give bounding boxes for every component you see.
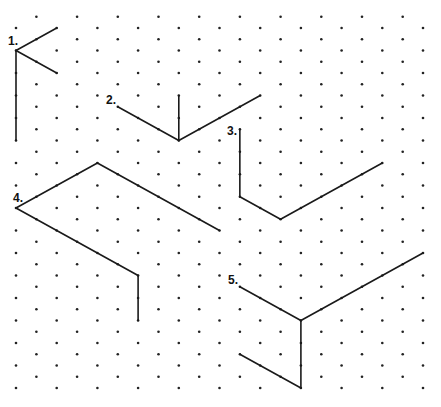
grid-dot [55, 274, 58, 277]
grid-dot [157, 308, 160, 311]
grid-dot [15, 364, 18, 367]
grid-dot [15, 319, 18, 322]
grid-dot [178, 184, 181, 187]
grid-dot [15, 252, 18, 255]
grid-dot [198, 376, 201, 379]
grid-dot [259, 184, 262, 187]
grid-dot [137, 94, 140, 97]
grid-dot [198, 173, 201, 176]
grid-dot [279, 173, 282, 176]
grid-dot [401, 196, 404, 199]
figure-segment [240, 197, 281, 220]
grid-dot [137, 49, 140, 52]
grid-dot [381, 229, 384, 232]
grid-dot [35, 286, 38, 289]
grid-dot [15, 229, 18, 232]
grid-dot [157, 173, 160, 176]
grid-dot [422, 387, 425, 390]
grid-dot [320, 376, 323, 379]
grid-dot [137, 387, 140, 390]
grid-dot [381, 117, 384, 120]
grid-dot [35, 15, 38, 18]
grid-dot [422, 184, 425, 187]
grid-dot [259, 72, 262, 75]
figure-labels: 1.2.3.4.5. [8, 34, 238, 287]
grid-dot [218, 342, 221, 345]
grid-dot [239, 308, 242, 311]
grid-dot [300, 49, 303, 52]
figure-label-5: 5. [228, 273, 238, 287]
grid-dot [422, 117, 425, 120]
grid-dot [279, 331, 282, 334]
grid-dot [279, 196, 282, 199]
grid-dot [117, 61, 120, 64]
grid-dot [218, 319, 221, 322]
grid-dot [300, 117, 303, 120]
grid-dot [55, 139, 58, 142]
grid-dot [320, 128, 323, 131]
figure-segment [240, 287, 301, 321]
grid-dot [178, 342, 181, 345]
grid-dot [320, 61, 323, 64]
grid-dot [340, 387, 343, 390]
grid-dot [340, 72, 343, 75]
grid-dot [157, 353, 160, 356]
grid-dot [55, 94, 58, 97]
grid-dot [401, 241, 404, 244]
grid-dot [96, 342, 99, 345]
grid-dot [300, 27, 303, 30]
grid-dot [300, 162, 303, 165]
grid-dot [259, 139, 262, 142]
grid-dot [259, 387, 262, 390]
grid-dot [381, 49, 384, 52]
grid-dot [35, 263, 38, 266]
grid-dot [76, 196, 79, 199]
grid-dot [198, 241, 201, 244]
grid-dot [340, 342, 343, 345]
grid-dot [117, 218, 120, 221]
grid-dot [320, 151, 323, 154]
grid-dot [361, 218, 364, 221]
grid-dot [157, 151, 160, 154]
grid-dot [96, 117, 99, 120]
grid-dot [422, 364, 425, 367]
grid-dot [361, 308, 364, 311]
grid-dot [218, 139, 221, 142]
grid-dot [259, 229, 262, 232]
grid-dot [361, 83, 364, 86]
grid-dot [401, 106, 404, 109]
grid-dot [35, 241, 38, 244]
figure-3 [240, 129, 382, 219]
grid-dot [96, 297, 99, 300]
grid-dot [15, 162, 18, 165]
grid-dot [320, 241, 323, 244]
grid-dot [198, 38, 201, 41]
grid-dot [76, 106, 79, 109]
grid-dot [401, 331, 404, 334]
grid-dot [279, 128, 282, 131]
grid-dot [218, 364, 221, 367]
grid-dot [279, 241, 282, 244]
grid-dot [137, 342, 140, 345]
grid-dot [259, 319, 262, 322]
grid-dot [320, 263, 323, 266]
grid-dot [381, 252, 384, 255]
grid-dot [218, 207, 221, 210]
grid-dot [35, 353, 38, 356]
grid-dot [15, 297, 18, 300]
figure-segment [16, 163, 97, 208]
grid-dot [218, 94, 221, 97]
grid-dot [117, 308, 120, 311]
grid-dot [137, 252, 140, 255]
grid-dot [157, 61, 160, 64]
grid-dot [239, 218, 242, 221]
grid-dot [178, 229, 181, 232]
grid-dot [300, 94, 303, 97]
grid-dot [55, 49, 58, 52]
grid-dot [259, 117, 262, 120]
grid-dot [117, 151, 120, 154]
grid-dot [55, 319, 58, 322]
grid-dot [96, 274, 99, 277]
grid-dot [76, 286, 79, 289]
grid-dot [422, 297, 425, 300]
